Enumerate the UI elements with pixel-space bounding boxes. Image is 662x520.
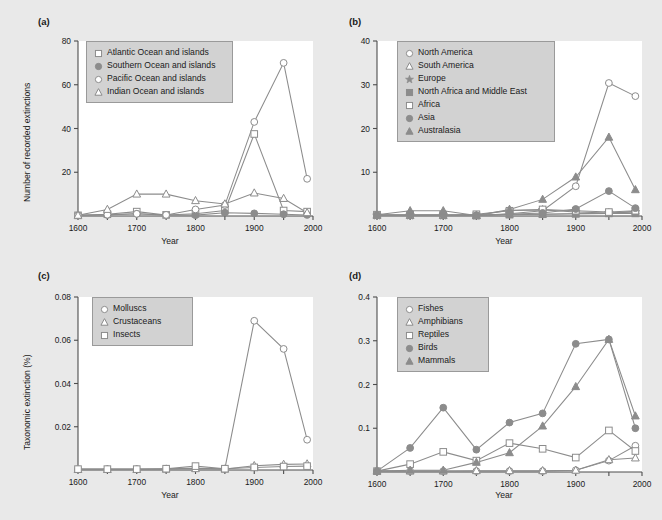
legend-label: Fishes	[418, 302, 443, 315]
legend-item-north-africa-and-middle-east[interactable]: North Africa and Middle East	[403, 85, 547, 98]
data-point-open-circle	[406, 50, 412, 56]
data-point-filled-circle	[572, 340, 579, 347]
legend-item-birds[interactable]: Birds	[403, 341, 481, 354]
legend-label: South America	[418, 59, 474, 72]
x-tick-label: 1600	[368, 223, 387, 233]
filled-circle-icon	[403, 341, 416, 354]
panel-c-legend: MolluscsCrustaceansInsects	[92, 297, 193, 346]
legend-item-pacific-ocean-and-islands[interactable]: Pacific Ocean and islands	[92, 72, 225, 85]
legend-item-asia[interactable]: Asia	[403, 111, 547, 124]
x-tick-label: 1700	[127, 477, 146, 487]
open-triangle-icon	[403, 59, 416, 72]
panel-a-plot: 2040608016001700180019002000	[0, 0, 331, 260]
data-point-open-circle	[133, 210, 140, 217]
data-point-open-square	[406, 332, 412, 338]
data-point-filled-circle	[251, 210, 258, 217]
data-point-open-circle	[280, 346, 287, 353]
y-tick-label: 0.4	[358, 292, 370, 302]
legend-label: Europe	[418, 72, 446, 85]
open-circle-icon	[98, 302, 111, 315]
data-point-open-square	[606, 427, 613, 434]
x-tick-label: 2000	[304, 477, 323, 487]
y-tick-label: 0.06	[55, 335, 72, 345]
open-square-icon	[92, 46, 105, 59]
data-point-open-circle	[95, 76, 101, 82]
panel-d-label: (d)	[349, 270, 361, 281]
x-tick-label: 1700	[127, 223, 146, 233]
legend-item-fishes[interactable]: Fishes	[403, 302, 481, 315]
x-tick-label: 1800	[500, 479, 519, 489]
panel-a-ylabel: Number of recorded extinctions	[22, 83, 32, 202]
legend-item-north-america[interactable]: North America	[403, 46, 547, 59]
filled-triangle-icon	[403, 124, 416, 137]
panel-d-plot: 0.10.20.30.416001700180019002000	[331, 260, 662, 520]
open-triangle-icon	[98, 315, 111, 328]
y-tick-label: 0.04	[55, 379, 72, 389]
y-tick-label: 0.1	[358, 423, 370, 433]
data-point-open-square	[572, 454, 579, 461]
data-point-open-square	[606, 209, 613, 216]
x-tick-label: 1900	[245, 477, 264, 487]
x-tick-label: 2000	[633, 479, 652, 489]
x-tick-label: 1900	[566, 223, 585, 233]
legend-label: North America	[418, 46, 472, 59]
data-point-open-triangle	[406, 63, 413, 70]
open-circle-icon	[92, 72, 105, 85]
data-point-filled-star	[405, 75, 413, 83]
legend-item-molluscs[interactable]: Molluscs	[98, 302, 185, 315]
data-point-filled-circle	[221, 209, 228, 216]
panel-c-xlabel: Year	[140, 490, 200, 500]
legend-label: Molluscs	[113, 302, 146, 315]
data-point-open-circle	[192, 206, 199, 213]
legend-item-crustaceans[interactable]: Crustaceans	[98, 315, 185, 328]
data-point-open-square	[133, 466, 140, 473]
data-point-filled-circle	[95, 63, 101, 69]
legend-item-atlantic-ocean-and-islands[interactable]: Atlantic Ocean and islands	[92, 46, 225, 59]
x-tick-label: 2000	[304, 223, 323, 233]
legend-item-mammals[interactable]: Mammals	[403, 354, 481, 367]
x-tick-label: 1600	[69, 477, 88, 487]
open-square-icon	[403, 98, 416, 111]
legend-item-africa[interactable]: Africa	[403, 98, 547, 111]
data-point-open-square	[163, 465, 170, 472]
data-point-filled-circle	[539, 410, 546, 417]
data-point-open-square	[539, 446, 546, 453]
data-point-filled-circle	[406, 115, 412, 121]
data-point-open-triangle	[406, 319, 413, 326]
open-square-icon	[403, 328, 416, 341]
legend-label: Asia	[418, 111, 435, 124]
y-tick-label: 0.02	[55, 422, 72, 432]
panel-a-legend: Atlantic Ocean and islandsSouthern Ocean…	[86, 41, 233, 103]
data-point-filled-circle	[572, 206, 579, 213]
open-triangle-icon	[403, 315, 416, 328]
legend-item-amphibians[interactable]: Amphibians	[403, 315, 481, 328]
legend-item-south-america[interactable]: South America	[403, 59, 547, 72]
panel-d: (d) 0.10.20.30.416001700180019002000 Yea…	[331, 260, 662, 520]
data-point-filled-circle	[406, 345, 412, 351]
data-point-filled-circle	[632, 205, 639, 212]
legend-item-indian-ocean-and-islands[interactable]: Indian Ocean and islands	[92, 85, 225, 98]
x-tick-label: 1700	[434, 223, 453, 233]
panel-c: (c) Taxonomic extinction (%) 0.020.040.0…	[0, 260, 331, 520]
legend-label: Crustaceans	[113, 315, 161, 328]
data-point-open-square	[101, 332, 107, 338]
legend-item-insects[interactable]: Insects	[98, 328, 185, 341]
filled-triangle-icon	[403, 354, 416, 367]
legend-item-australasia[interactable]: Australasia	[403, 124, 547, 137]
data-point-open-circle	[251, 317, 258, 324]
legend-item-reptiles[interactable]: Reptiles	[403, 328, 481, 341]
panel-c-label: (c)	[38, 270, 50, 281]
x-tick-label: 1800	[186, 477, 205, 487]
legend-label: Amphibians	[418, 315, 463, 328]
data-point-filled-circle	[539, 210, 546, 217]
y-tick-label: 60	[62, 80, 72, 90]
data-point-filled-circle	[605, 188, 612, 195]
legend-label: Southern Ocean and islands	[107, 59, 215, 72]
y-tick-label: 0.08	[55, 292, 72, 302]
data-point-filled-circle	[632, 425, 639, 432]
legend-label: Mammals	[418, 354, 455, 367]
legend-item-southern-ocean-and-islands[interactable]: Southern Ocean and islands	[92, 59, 225, 72]
legend-item-europe[interactable]: Europe	[403, 72, 547, 85]
data-point-open-circle	[304, 175, 311, 182]
data-point-open-square	[251, 131, 258, 138]
